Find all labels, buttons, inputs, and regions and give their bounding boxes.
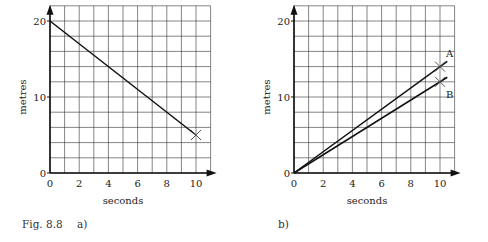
x-axis-arrow-icon [207, 170, 217, 177]
y-tick-label: 0 [284, 168, 290, 179]
x-tick-label: 0 [291, 178, 297, 189]
x-axis-label: seconds [347, 195, 388, 206]
x-axis-arrow-icon [451, 170, 461, 177]
subfigure-label-b: b) [278, 218, 289, 230]
grid [294, 6, 455, 173]
x-tick-label: 2 [76, 178, 82, 189]
y-tick-label: 0 [40, 168, 46, 179]
series-label-a: A [445, 48, 454, 59]
chart-a-svg: 024681001020secondsmetres [0, 0, 244, 210]
chart-b-distance-time-graph: 024681001020secondsmetresAB [244, 0, 488, 214]
x-tick-label: 10 [190, 178, 203, 189]
y-tick-label: 20 [277, 16, 290, 27]
grid [50, 6, 211, 173]
figure-caption: Fig. 8.8 [22, 218, 63, 230]
y-tick-label: 10 [277, 92, 290, 103]
x-tick-label: 4 [105, 178, 111, 189]
x-tick-label: 6 [134, 178, 140, 189]
x-axis-label: seconds [103, 195, 144, 206]
x-tick-label: 6 [378, 178, 384, 189]
chart-b-svg: 024681001020secondsmetresAB [244, 0, 488, 210]
x-tick-label: 0 [47, 178, 53, 189]
y-tick-label: 20 [33, 16, 46, 27]
y-tick-label: 10 [33, 92, 46, 103]
x-tick-label: 8 [164, 178, 170, 189]
subfigure-label-a: a) [77, 218, 87, 230]
y-axis-arrow-icon [47, 5, 54, 15]
y-axis-label: metres [17, 79, 28, 114]
data-line-b [294, 77, 447, 173]
x-tick-label: 2 [320, 178, 326, 189]
chart-a-distance-time-graph: 024681001020secondsmetres [0, 0, 244, 214]
x-tick-label: 10 [434, 178, 447, 189]
x-tick-label: 4 [349, 178, 355, 189]
y-axis-label: metres [261, 79, 272, 114]
data-line-a [294, 61, 447, 173]
series-label-b: B [446, 89, 453, 100]
x-tick-label: 8 [408, 178, 414, 189]
y-axis-arrow-icon [291, 5, 298, 15]
